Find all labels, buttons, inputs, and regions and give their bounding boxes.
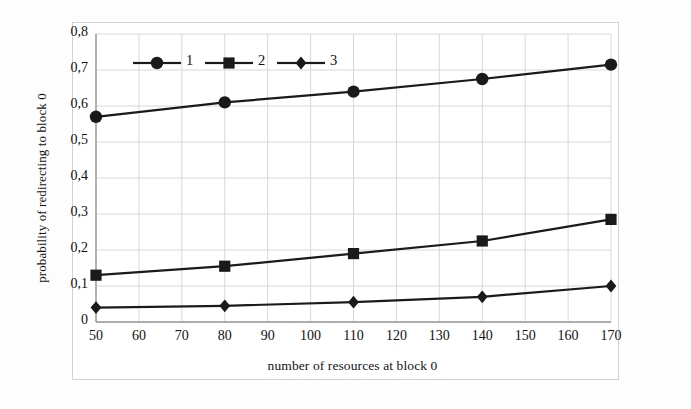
x-tick-label: 160 (548, 328, 588, 344)
x-axis-title: number of resources at block 0 (95, 358, 610, 374)
data-point-1 (219, 96, 231, 108)
line-chart-plot (0, 0, 691, 409)
x-tick-label: 130 (419, 328, 459, 344)
chart-area: probability of redirecting to block 0 nu… (0, 0, 691, 409)
legend-label-3: 3 (330, 52, 337, 69)
y-tick-label: 0,8 (48, 24, 88, 40)
legend-label-1: 1 (186, 52, 193, 69)
x-tick-label: 50 (76, 328, 116, 344)
x-tick-label: 150 (505, 328, 545, 344)
y-tick-label: 0,6 (48, 96, 88, 112)
data-point-2 (90, 270, 101, 281)
y-tick-label: 0,7 (48, 60, 88, 76)
data-point-2 (219, 261, 230, 272)
x-tick-label: 70 (162, 328, 202, 344)
y-tick-label: 0,4 (48, 168, 88, 184)
y-tick-label: 0,3 (48, 204, 88, 220)
y-tick-label: 0,1 (48, 276, 88, 292)
x-tick-label: 100 (291, 328, 331, 344)
x-tick-label: 110 (334, 328, 374, 344)
y-tick-label: 0 (48, 312, 88, 328)
x-tick-label: 80 (205, 328, 245, 344)
data-point-1 (347, 85, 359, 97)
x-tick-label: 120 (376, 328, 416, 344)
data-point-1 (90, 111, 102, 123)
x-tick-label: 170 (591, 328, 631, 344)
x-tick-label: 60 (119, 328, 159, 344)
data-point-2 (477, 235, 488, 246)
data-point-1 (605, 58, 617, 70)
x-tick-label: 90 (248, 328, 288, 344)
y-tick-label: 0,2 (48, 240, 88, 256)
x-tick-label: 140 (462, 328, 502, 344)
figure-container: probability of redirecting to block 0 nu… (0, 0, 691, 409)
legend-marker-2 (223, 57, 234, 68)
y-tick-label: 0,5 (48, 132, 88, 148)
data-point-2 (348, 248, 359, 259)
legend-label-2: 2 (258, 52, 265, 69)
data-point-2 (605, 214, 616, 225)
data-point-1 (476, 73, 488, 85)
